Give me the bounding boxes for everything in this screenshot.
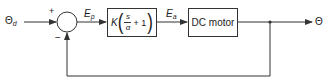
- right-paren: ): [147, 12, 153, 33]
- actuator-signal-subscript: a: [173, 13, 177, 20]
- plant-label: DC motor: [192, 17, 235, 28]
- minus-sign: −: [55, 33, 61, 43]
- feedback-path: [67, 22, 270, 76]
- actuator-signal-label: Ea: [166, 9, 177, 19]
- plant-block: DC motor: [188, 8, 238, 37]
- controller-plus-one: + 1: [133, 18, 146, 28]
- input-symbol: Θ: [5, 15, 13, 26]
- left-paren: (: [118, 12, 124, 33]
- actuator-signal-symbol: E: [166, 8, 173, 19]
- plus-sign: +: [49, 6, 54, 16]
- error-signal-symbol: E: [84, 8, 91, 19]
- summing-junction: [57, 12, 77, 32]
- error-signal-subscript: p: [91, 13, 95, 20]
- fraction-numerator: s: [126, 13, 130, 21]
- fraction-denominator: α: [126, 24, 131, 32]
- controller-fraction: s α: [124, 13, 131, 32]
- controller-block: K ( s α + 1 ): [107, 8, 157, 37]
- controller-gain: K: [111, 17, 118, 28]
- output-label: Θ: [315, 17, 323, 27]
- input-label: Θd: [5, 16, 17, 26]
- error-signal-label: Ep: [84, 9, 95, 19]
- input-subscript: d: [13, 20, 17, 27]
